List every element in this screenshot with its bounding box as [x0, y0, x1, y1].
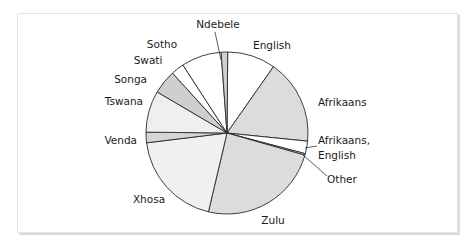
pie-chart: EnglishAfrikaansAfrikaans,EnglishOtherZu… — [0, 0, 475, 245]
slice-label: Sotho — [147, 38, 177, 50]
slice-label: Venda — [104, 134, 137, 146]
slice-label: Tswana — [104, 95, 143, 107]
slice-label: English — [318, 149, 356, 161]
slice-label: Songa — [114, 73, 147, 85]
slice-label: Zulu — [261, 214, 284, 226]
slice-label: English — [253, 39, 291, 51]
slice-label: Afrikaans — [318, 96, 367, 108]
slice-label: Xhosa — [133, 193, 165, 205]
slice-label: Other — [327, 173, 357, 185]
slice-label: Afrikaans, — [318, 134, 370, 146]
slice-label: Ndebele — [196, 18, 239, 30]
slice-label: Swati — [134, 54, 163, 66]
pie-slices — [146, 52, 308, 214]
